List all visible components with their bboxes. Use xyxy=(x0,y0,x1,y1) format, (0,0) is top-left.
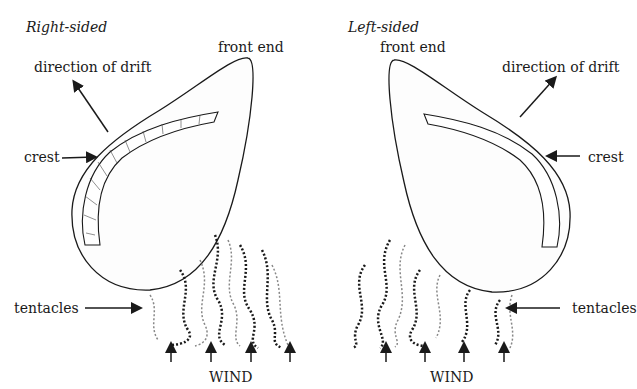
left-sided-title: Left-sided xyxy=(348,20,419,34)
left-drift-label: direction of drift xyxy=(502,60,619,74)
right-crest-label: crest xyxy=(24,150,60,164)
right-drift-label: direction of drift xyxy=(34,60,151,74)
left-sided-float xyxy=(389,60,570,292)
right-sided-float xyxy=(72,58,253,290)
right-sided-title: Right-sided xyxy=(26,20,107,34)
left-wind-label: WIND xyxy=(430,370,473,384)
right-front-end-label: front end xyxy=(218,40,284,54)
left-crest-label: crest xyxy=(588,150,624,164)
right-wind-label: WIND xyxy=(209,370,252,384)
left-front-end-label: front end xyxy=(380,40,446,54)
right-tentacles-label: tentacles xyxy=(14,301,79,315)
left-tentacles-label: tentacles xyxy=(572,301,637,315)
